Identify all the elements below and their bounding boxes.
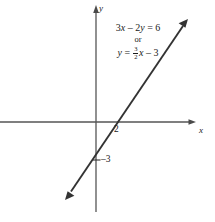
standard-x-variable: x (121, 22, 125, 33)
equation-connector-text: or (92, 33, 184, 46)
graph-line-arrowhead-down-icon (65, 191, 74, 200)
slope-fraction-denominator: 2 (133, 53, 138, 61)
slope-equals-sign: = (125, 47, 131, 58)
slope-y-variable: y (118, 47, 122, 58)
x-axis-arrowhead-icon (189, 119, 197, 125)
linear-equation-graph: y x 2 –3 3x – 2y = 6 or y = 3 2 x – 3 (0, 0, 215, 222)
slope-fraction: 3 2 (133, 46, 138, 60)
x-intercept-label: 2 (114, 125, 119, 135)
equation-annotations: 3x – 2y = 6 or y = 3 2 x – 3 (92, 22, 184, 61)
y-axis-label: y (99, 4, 103, 13)
y-intercept-label: –3 (101, 155, 111, 165)
slope-intercept-form-equation: y = 3 2 x – 3 (92, 47, 184, 61)
standard-constant: 6 (155, 22, 160, 33)
standard-minus-sign: – (128, 22, 133, 33)
x-axis-label: x (199, 126, 203, 135)
slope-minus-sign: – (146, 47, 151, 58)
slope-fraction-numerator: 3 (133, 46, 138, 53)
standard-form-equation: 3x – 2y = 6 (92, 22, 184, 33)
standard-equals-sign: = (147, 22, 153, 33)
y-axis-arrowhead-icon (93, 5, 99, 13)
slope-x-variable: x (139, 47, 143, 58)
slope-constant: 3 (153, 47, 158, 58)
x-axis (0, 119, 196, 125)
standard-y-variable: y (140, 22, 144, 33)
